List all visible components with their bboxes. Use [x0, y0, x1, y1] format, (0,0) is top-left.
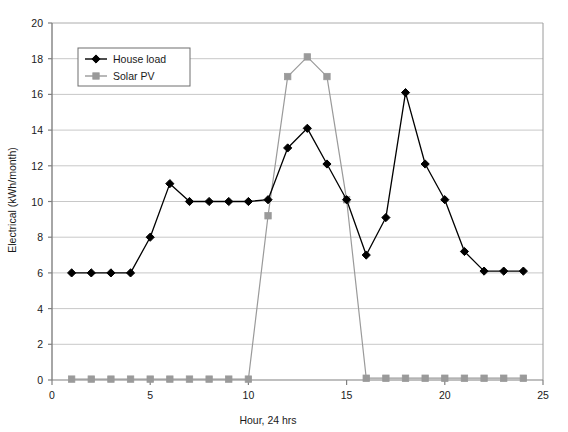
- y-tick-label-20: 20: [31, 17, 43, 29]
- y-tick-label-16: 16: [31, 88, 43, 100]
- data-point-solar-pv-h12: [284, 73, 290, 79]
- x-tick-label-5: 5: [147, 389, 153, 401]
- data-point-solar-pv-h22: [481, 375, 487, 381]
- x-tick-label-0: 0: [49, 389, 55, 401]
- data-point-solar-pv-h5: [147, 376, 153, 382]
- legend-label-1: House load: [113, 53, 166, 65]
- legend-marker-square: [93, 73, 99, 79]
- y-axis-title: Electrical (kWh/month): [6, 147, 18, 253]
- data-point-solar-pv-h6: [167, 376, 173, 382]
- data-point-solar-pv-h1: [68, 376, 74, 382]
- data-point-solar-pv-h13: [304, 54, 310, 60]
- data-point-solar-pv-h20: [442, 375, 448, 381]
- chart-container: 02468101214161820 0510152025 House loadS…: [0, 0, 568, 432]
- data-point-solar-pv-h9: [226, 376, 232, 382]
- data-point-solar-pv-h16: [363, 375, 369, 381]
- data-point-solar-pv-h24: [520, 375, 526, 381]
- x-tick-label-20: 20: [439, 389, 451, 401]
- data-point-solar-pv-h14: [324, 73, 330, 79]
- y-tick-label-2: 2: [37, 338, 43, 350]
- data-point-solar-pv-h19: [422, 375, 428, 381]
- y-tick-label-8: 8: [37, 231, 43, 243]
- chart-legend: House loadSolar PV: [78, 48, 190, 86]
- data-point-solar-pv-h21: [461, 375, 467, 381]
- data-point-solar-pv-h8: [206, 376, 212, 382]
- data-point-solar-pv-h4: [127, 376, 133, 382]
- y-tick-label-0: 0: [37, 374, 43, 386]
- legend-label-2: Solar PV: [113, 70, 154, 82]
- y-tick-label-12: 12: [31, 160, 43, 172]
- x-axis-title: Hour, 24 hrs: [239, 414, 296, 426]
- data-point-solar-pv-h17: [383, 375, 389, 381]
- data-point-solar-pv-h7: [186, 376, 192, 382]
- data-point-solar-pv-h18: [402, 375, 408, 381]
- x-tick-label-25: 25: [537, 389, 549, 401]
- y-tick-label-6: 6: [37, 267, 43, 279]
- x-tick-label-15: 15: [341, 389, 353, 401]
- data-point-solar-pv-h23: [501, 375, 507, 381]
- y-tick-label-10: 10: [31, 196, 43, 208]
- x-tick-label-10: 10: [243, 389, 255, 401]
- chart-canvas: 02468101214161820 0510152025 House loadS…: [0, 0, 568, 432]
- data-point-solar-pv-h3: [108, 376, 114, 382]
- data-point-solar-pv-h11: [265, 213, 271, 219]
- data-point-solar-pv-h10: [245, 376, 251, 382]
- y-tick-label-4: 4: [37, 303, 43, 315]
- y-tick-label-14: 14: [31, 124, 43, 136]
- y-tick-label-18: 18: [31, 53, 43, 65]
- data-point-solar-pv-h2: [88, 376, 94, 382]
